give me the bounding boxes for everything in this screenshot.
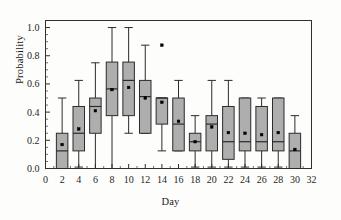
box-plot-item [123, 28, 135, 134]
x-tick-label: 2 [60, 174, 65, 185]
x-tick-label: 4 [76, 174, 81, 185]
box-plot-item [73, 80, 85, 167]
x-tick-label: 10 [124, 174, 134, 185]
box-plot-item [90, 63, 102, 169]
box-plot-item [239, 98, 251, 167]
box-plot-item [189, 116, 201, 167]
x-tick-label: 8 [110, 174, 115, 185]
x-tick-label: 24 [240, 174, 250, 185]
box-plot-item [56, 98, 68, 168]
box-plot-item [173, 80, 185, 150]
y-tick-label: 0.4 [27, 107, 40, 118]
box-plot-item [289, 116, 301, 169]
y-tick-label: 0.8 [27, 50, 40, 61]
x-tick-label: 20 [207, 174, 217, 185]
y-tick-label: 0.6 [27, 78, 40, 89]
x-tick-label: 12 [140, 174, 150, 185]
x-tick-label: 22 [223, 174, 233, 185]
box-plot-item [206, 80, 218, 167]
plot-canvas: 0.00.20.40.60.81.0 024681012141618202224… [0, 0, 341, 220]
box-plot-item [156, 44, 168, 151]
box-plot-figure: Probability Day 0.00.20.40.60.81.0 02468… [0, 0, 341, 220]
x-tick-label: 14 [157, 174, 167, 185]
y-axis-ticks: 0.00.20.40.60.81.0 [27, 22, 50, 174]
x-tick-label: 32 [307, 174, 317, 185]
box-plot-item [140, 45, 152, 133]
box-plot-item [106, 28, 118, 169]
x-tick-label: 0 [43, 174, 48, 185]
x-tick-label: 26 [257, 174, 267, 185]
y-tick-label: 0.2 [27, 135, 40, 146]
x-tick-label: 18 [190, 174, 200, 185]
x-tick-label: 28 [273, 174, 283, 185]
box-plot-item [223, 80, 235, 167]
y-tick-label: 0.0 [27, 163, 40, 174]
x-tick-label: 6 [93, 174, 98, 185]
x-tick-label: 16 [174, 174, 184, 185]
box-series [56, 28, 300, 169]
box-plot-item [256, 98, 268, 167]
box-plot-item [273, 98, 285, 167]
x-tick-label: 30 [290, 174, 300, 185]
y-tick-label: 1.0 [27, 22, 40, 33]
